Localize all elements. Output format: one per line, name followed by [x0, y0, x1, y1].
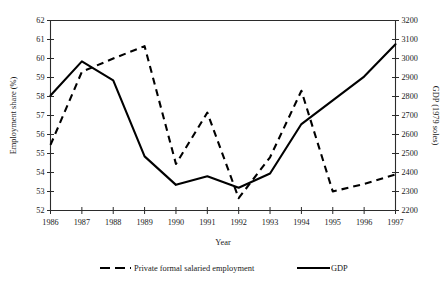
series-layer — [51, 44, 396, 198]
y-axis-right-tick-label: 2900 — [402, 73, 418, 82]
series-line-employment — [51, 46, 396, 198]
x-axis-tick-label: 1993 — [262, 218, 278, 227]
series-line-gdp — [51, 44, 396, 187]
x-axis: 1986198719881989199019911992199319941995… — [42, 207, 403, 227]
y-axis-right-tick-label: 2700 — [402, 111, 418, 120]
y-axis-left-tick-label: 60 — [36, 54, 44, 63]
y-axis-left: 5253545556575859606162 — [36, 16, 54, 215]
x-axis-tick-label: 1997 — [387, 218, 403, 227]
y-axis-right-tick-label: 3200 — [402, 16, 418, 25]
y-axis-right-tick-label: 2800 — [402, 92, 418, 101]
x-axis-title: Year — [215, 238, 231, 247]
x-axis-tick-label: 1994 — [293, 218, 309, 227]
y-axis-left-tick-label: 55 — [36, 149, 44, 158]
chart-figure: 5253545556575859606162 22002300240025002… — [0, 0, 447, 288]
line-chart: 5253545556575859606162 22002300240025002… — [0, 0, 447, 288]
y-axis-right-tick-label: 2400 — [402, 168, 418, 177]
y-axis-left-tick-label: 57 — [36, 111, 44, 120]
y-axis-left-title: Employment share (%) — [9, 76, 18, 154]
y-axis-left-tick-label: 62 — [36, 16, 44, 25]
x-axis-tick-label: 1992 — [230, 218, 246, 227]
x-axis-tick-label: 1986 — [42, 218, 58, 227]
y-axis-right-title: GDP (1979 soles) — [431, 86, 440, 146]
x-axis-tick-label: 1989 — [136, 218, 152, 227]
y-axis-right-tick-label: 2500 — [402, 149, 418, 158]
y-axis-left-tick-label: 59 — [36, 73, 44, 82]
legend-label-gdp: GDP — [331, 264, 348, 273]
y-axis-right-tick-label: 3000 — [402, 54, 418, 63]
x-axis-tick-label: 1995 — [325, 218, 341, 227]
x-axis-tick-label: 1987 — [74, 218, 90, 227]
y-axis-left-tick-label: 58 — [36, 92, 44, 101]
legend-label-employment: Private formal salaried employment — [134, 264, 255, 273]
x-axis-tick-label: 1988 — [105, 218, 121, 227]
y-axis-right-tick-label: 2600 — [402, 130, 418, 139]
chart-legend: Private formal salaried employmentGDP — [100, 264, 348, 273]
y-axis-left-tick-label: 61 — [36, 35, 44, 44]
y-axis-right-tick-label: 3100 — [402, 35, 418, 44]
x-axis-tick-label: 1996 — [356, 218, 372, 227]
x-axis-tick-label: 1991 — [199, 218, 215, 227]
y-axis-right-tick-label: 2300 — [402, 187, 418, 196]
y-axis-left-tick-label: 56 — [36, 130, 44, 139]
x-axis-tick-label: 1990 — [168, 218, 184, 227]
y-axis-left-tick-label: 54 — [36, 168, 44, 177]
y-axis-left-tick-label: 52 — [36, 206, 44, 215]
y-axis-left-tick-label: 53 — [36, 187, 44, 196]
y-axis-right-tick-label: 2200 — [402, 206, 418, 215]
